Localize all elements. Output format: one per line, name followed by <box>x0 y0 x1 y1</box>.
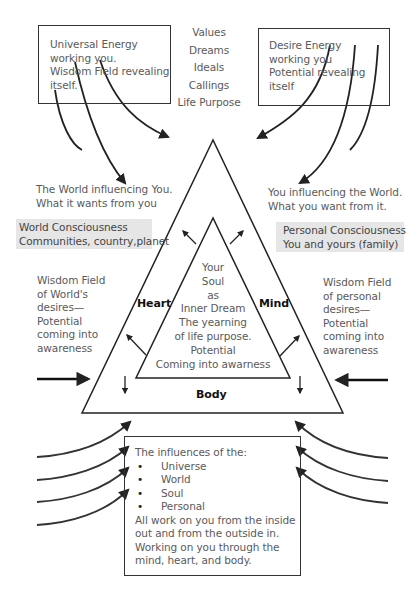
world-wisdom-field: Wisdom Field of World's desires— Potenti… <box>37 274 105 355</box>
personal-wisdom-line-4: Potential <box>323 317 391 331</box>
desire-energy-line-2: working you <box>269 53 389 67</box>
soul-line-1: Your <box>143 261 283 275</box>
influence-personal: Personal <box>135 500 300 514</box>
world-wisdom-line-6: awareness <box>37 342 105 356</box>
influences-closing-2: out and from the outside in. <box>135 527 300 541</box>
universal-energy-line-1: Universal Energy <box>50 38 170 52</box>
arrow-bottom-right-1 <box>296 422 388 458</box>
personal-wisdom-line-6: awareness <box>323 344 391 358</box>
callings-item: Callings <box>168 77 250 95</box>
soul-line-6: of life purpose. <box>143 330 283 344</box>
life-purpose-item: Life Purpose <box>168 94 250 112</box>
world-consciousness-label: World Consciousness Communities, country… <box>19 221 169 248</box>
desire-energy-box: Desire Energy working you Potential reve… <box>258 28 390 106</box>
personal-consciousness-line-1: Personal Consciousness <box>283 224 406 238</box>
values-item: Values <box>168 24 250 42</box>
world-wisdom-line-1: Wisdom Field <box>37 274 105 288</box>
values-list: Values Dreams Ideals Callings Life Purpo… <box>168 24 250 112</box>
influence-world: World <box>135 473 300 487</box>
personal-consciousness-line-2: You and yours (family) <box>283 238 406 252</box>
world-influencing-line-1: The World influencing You. <box>36 183 172 197</box>
influences-closing-4: mind, heart, and body. <box>135 554 300 568</box>
universal-energy-line-4: itself. <box>50 79 170 93</box>
soul-inner-text: Your Soul as Inner Dream The yearning of… <box>143 261 283 371</box>
influences-box: The influences of the: Universe World So… <box>124 436 301 576</box>
influence-soul: Soul <box>135 487 300 501</box>
world-wisdom-line-2: of World's <box>37 288 105 302</box>
influences-intro: The influences of the: <box>135 446 300 460</box>
personal-wisdom-line-5: coming into <box>323 330 391 344</box>
arrow-bottom-left-4 <box>37 490 128 525</box>
desire-energy-line-4: itself <box>269 80 389 94</box>
you-influencing-line-2: What you want from it. <box>268 200 402 214</box>
influences-closing-1: All work on you from the inside <box>135 514 300 528</box>
dreams-item: Dreams <box>168 42 250 60</box>
desire-energy-line-3: Potential revealing <box>269 66 389 80</box>
personal-wisdom-line-2: of personal <box>323 290 391 304</box>
personal-wisdom-line-3: desires— <box>323 303 391 317</box>
universal-energy-line-3: Wisdom Field revealing <box>50 65 170 79</box>
universal-energy-box: Universal Energy working you. Wisdom Fie… <box>38 25 171 104</box>
soul-line-5: The yearning <box>143 316 283 330</box>
influence-universe: Universe <box>135 460 300 474</box>
arrow-inner-up-right <box>230 231 243 244</box>
you-influencing-world: You influencing the World. What you want… <box>268 186 402 213</box>
influences-list: Universe World Soul Personal <box>135 460 300 514</box>
you-influencing-line-1: You influencing the World. <box>268 186 402 200</box>
body-label: Body <box>196 388 227 402</box>
arrow-bottom-right-2 <box>297 447 388 481</box>
desire-energy-line-1: Desire Energy <box>269 39 389 53</box>
world-influencing-line-2: What it wants from you <box>36 197 172 211</box>
personal-consciousness-label: Personal Consciousness You and yours (fa… <box>283 224 406 251</box>
soul-line-8: Coming into awarness <box>143 358 283 372</box>
arrow-bottom-left-2 <box>37 447 128 480</box>
arrow-inner-up-left <box>183 231 196 244</box>
soul-line-4: Inner Dream <box>143 302 283 316</box>
world-consciousness-line-1: World Consciousness <box>19 221 169 235</box>
arrow-bottom-left-1 <box>37 422 130 457</box>
world-influencing-you: The World influencing You. What it wants… <box>36 183 172 210</box>
influences-closing-3: Working on you through the <box>135 541 300 555</box>
soul-line-7: Potential <box>143 344 283 358</box>
ideals-item: Ideals <box>168 59 250 77</box>
soul-line-2: Soul <box>143 275 283 289</box>
world-wisdom-line-3: desires— <box>37 301 105 315</box>
arrow-bottom-left-3 <box>37 468 128 502</box>
world-wisdom-line-5: coming into <box>37 328 105 342</box>
personal-wisdom-line-1: Wisdom Field <box>323 276 391 290</box>
personal-wisdom-field: Wisdom Field of personal desires— Potent… <box>323 276 391 357</box>
world-consciousness-line-2: Communities, country,planet <box>19 235 169 249</box>
soul-line-3: as <box>143 289 283 303</box>
world-wisdom-line-4: Potential <box>37 315 105 329</box>
universal-energy-line-2: working you. <box>50 52 170 66</box>
